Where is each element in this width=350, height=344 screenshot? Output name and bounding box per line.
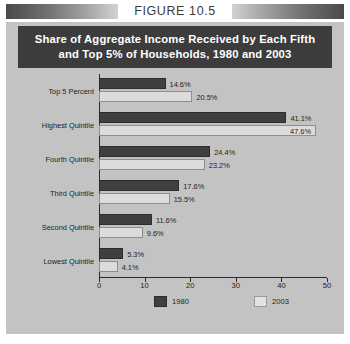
bar-value-label: 47.6% (290, 127, 311, 136)
bar-value-label: 17.6% (183, 182, 204, 191)
x-axis-tick-label: 0 (97, 281, 101, 290)
x-axis-tick-label: 20 (186, 281, 194, 290)
bar-value-label: 5.3% (127, 250, 144, 259)
bar-value-label: 20.5% (196, 93, 217, 102)
legend-item-2003[interactable]: 2003 (254, 296, 289, 307)
category-label: Lowest Quintile (14, 257, 94, 266)
category-label: Fourth Quintile (14, 155, 94, 164)
chart-title-line-1: Share of Aggregate Income Received by Ea… (35, 32, 316, 47)
bar-1980-0 (99, 78, 166, 89)
bar-value-label: 23.2% (209, 161, 230, 170)
bar-value-label: 4.1% (122, 263, 139, 272)
x-axis-tick-label: 10 (140, 281, 148, 290)
category-label: Top 5 Percent (14, 87, 94, 96)
bar-value-label: 15.5% (174, 195, 195, 204)
x-axis-tick-label: 30 (232, 281, 240, 290)
bar-2003-1 (99, 125, 316, 136)
x-axis-line (99, 277, 327, 278)
category-label: Third Quintile (14, 189, 94, 198)
bar-1980-4 (99, 214, 152, 225)
chart-legend: 19802003 (99, 296, 327, 312)
bar-2003-3 (99, 193, 170, 204)
bar-2003-0 (99, 91, 192, 102)
category-label: Highest Quintile (14, 121, 94, 130)
legend-label: 1980 (172, 297, 189, 306)
bar-value-label: 14.6% (170, 80, 191, 89)
bar-value-label: 41.1% (290, 114, 311, 123)
bar-1980-5 (99, 248, 123, 259)
bar-1980-3 (99, 180, 179, 191)
bar-value-label: 11.6% (156, 216, 176, 225)
bar-value-label: 9.6% (147, 229, 164, 238)
chart-panel: Share of Aggregate Income Received by Ea… (6, 22, 344, 334)
category-axis-labels: Top 5 PercentHighest QuintileFourth Quin… (18, 74, 98, 278)
legend-label: 2003 (272, 297, 289, 306)
category-label: Second Quintile (14, 223, 94, 232)
x-axis-tick-label: 40 (277, 281, 285, 290)
bar-1980-1 (99, 112, 286, 123)
legend-swatch-icon (154, 296, 167, 307)
bar-2003-2 (99, 159, 205, 170)
figure-caption: FIGURE 10.5 (6, 4, 344, 19)
bars-and-axes: 14.6%20.5%41.1%47.6%24.4%23.2%17.6%15.5%… (99, 74, 327, 278)
x-axis-tick-label: 50 (323, 281, 331, 290)
plot-area: Top 5 PercentHighest QuintileFourth Quin… (18, 74, 332, 306)
legend-item-1980[interactable]: 1980 (154, 296, 189, 307)
bar-value-label: 24.4% (214, 148, 235, 157)
legend-swatch-icon (254, 296, 267, 307)
figure-header-band: FIGURE 10.5 (6, 4, 344, 19)
chart-title-banner: Share of Aggregate Income Received by Ea… (18, 26, 332, 68)
bar-1980-2 (99, 146, 210, 157)
figure-container: FIGURE 10.5 Share of Aggregate Income Re… (0, 0, 350, 344)
chart-title-line-2: and Top 5% of Households, 1980 and 2003 (59, 47, 292, 62)
bar-2003-5 (99, 261, 118, 272)
bar-2003-4 (99, 227, 143, 238)
